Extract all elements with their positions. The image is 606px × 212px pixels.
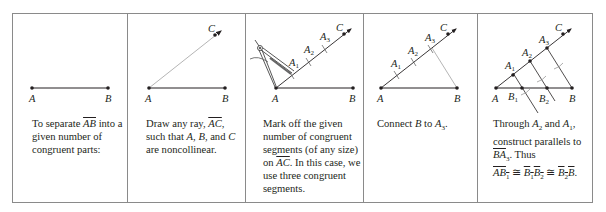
panel-3-diagram: A B C A1 A2 A3 — [250, 22, 356, 104]
point-b — [223, 86, 227, 90]
label-b: B — [222, 93, 229, 104]
svg-text:A3: A3 — [538, 34, 549, 47]
label-b: B — [105, 93, 112, 104]
svg-text:B: B — [569, 93, 576, 104]
label-a: A — [271, 93, 279, 104]
panel-1-diagram: A B — [28, 86, 112, 104]
label-a3: A3 — [319, 31, 330, 44]
panel-1-caption: To separate AB into a given number of co… — [32, 117, 124, 156]
compass-icon — [250, 40, 294, 87]
panel-4-diagram: A B C A1 A2 A3 — [376, 22, 461, 104]
svg-text:C: C — [440, 22, 448, 33]
svg-text:C: C — [555, 22, 563, 33]
point-a — [147, 86, 151, 90]
label-c: C — [208, 23, 216, 34]
ray-ac — [149, 31, 221, 88]
segment-b-a3 — [432, 48, 457, 88]
svg-text:B2: B2 — [539, 93, 549, 106]
svg-text:A: A — [491, 93, 499, 104]
svg-text:A1: A1 — [390, 58, 401, 71]
panel-3-caption: Mark off the given number of congruent s… — [263, 117, 361, 195]
point-b — [106, 86, 110, 90]
point-a — [30, 86, 34, 90]
label-a: A — [144, 93, 152, 104]
svg-text:B: B — [454, 93, 461, 104]
panel-5-diagram: A B C A1 A2 A3 B1 B2 — [491, 22, 576, 113]
panel-5-caption: Through A2 and A1, construct parallels t… — [493, 117, 591, 184]
svg-text:A1: A1 — [504, 60, 515, 73]
label-a2: A2 — [303, 44, 314, 57]
svg-text:A2: A2 — [521, 47, 532, 60]
svg-text:A2: A2 — [407, 45, 418, 58]
svg-text:A: A — [376, 93, 384, 104]
panel-2-diagram: A B C — [144, 23, 229, 104]
svg-text:B1: B1 — [508, 91, 518, 104]
label-c: C — [336, 22, 344, 33]
label-b: B — [349, 93, 356, 104]
svg-text:A3: A3 — [424, 32, 435, 45]
panel-4-caption: Connect B to A3. — [377, 117, 475, 135]
panel-2-caption: Draw any ray, AC, such that A, B, and C … — [146, 117, 244, 156]
ray-ac — [276, 29, 351, 88]
label-a: A — [28, 93, 36, 104]
